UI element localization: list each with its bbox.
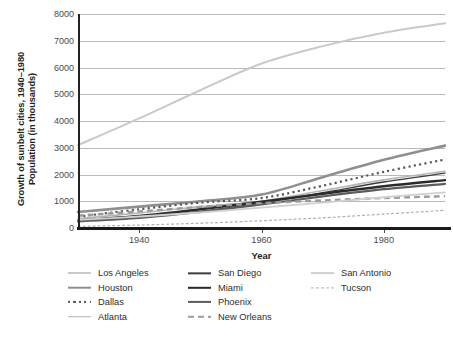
y-axis-tick-label: 7000 (54, 36, 74, 46)
y-axis-tick-label: 3000 (54, 143, 74, 153)
x-axis-tick-label: 1940 (129, 235, 149, 245)
legend-swatch-line-icon (311, 268, 334, 278)
legend-item-miami[interactable]: Miami (188, 281, 272, 296)
legend-label: Phoenix (218, 297, 252, 307)
legend-label: San Diego (218, 268, 261, 278)
y-axis-title: Growth of sunbelt cities, 1940–1980 Popu… (16, 14, 50, 244)
chart-legend: Los AngelesHoustonDallasAtlantaSan Diego… (68, 266, 453, 334)
y-axis-tick-label: 4000 (54, 116, 74, 126)
y-axis-line (78, 14, 80, 228)
legend-swatch-line-icon (68, 312, 91, 322)
y-axis-tick-label: 8000 (54, 9, 74, 19)
x-axis-tick-label: 1960 (251, 235, 271, 245)
legend-swatch-line-icon (188, 312, 211, 322)
series-line (78, 23, 445, 145)
y-axis-title-line2: Population (in thousands) (27, 14, 38, 244)
legend-label: Atlanta (98, 312, 127, 322)
legend-label: Tucson (341, 283, 371, 293)
x-axis-tick-label: 1980 (374, 235, 394, 245)
legend-item-houston[interactable]: Houston (68, 281, 149, 296)
legend-label: Los Angeles (98, 268, 149, 278)
legend-item-new-orleans[interactable]: New Orleans (188, 310, 272, 325)
legend-swatch-line-icon (68, 297, 91, 307)
legend-column: San AntonioTucson (311, 266, 391, 295)
legend-swatch-line-icon (311, 283, 334, 293)
legend-item-tucson[interactable]: Tucson (311, 281, 391, 296)
legend-column: San DiegoMiamiPhoenixNew Orleans (188, 266, 272, 324)
legend-swatch-line-icon (68, 283, 91, 293)
legend-item-los-angeles[interactable]: Los Angeles (68, 266, 149, 281)
legend-swatch-line-icon (68, 268, 91, 278)
chart-figure: Growth of sunbelt cities, 1940–1980 Popu… (0, 0, 453, 338)
y-axis-tick-label: 6000 (54, 63, 74, 73)
legend-label: San Antonio (341, 268, 391, 278)
y-axis-title-line1: Growth of sunbelt cities, 1940–1980 (16, 14, 27, 244)
legend-swatch-line-icon (188, 297, 211, 307)
y-axis-tick-label: 5000 (54, 89, 74, 99)
legend-item-dallas[interactable]: Dallas (68, 295, 149, 310)
y-axis-tick-label: 1000 (54, 196, 74, 206)
legend-label: Houston (98, 283, 133, 293)
legend-swatch-line-icon (188, 268, 211, 278)
y-axis-tick-label: 0 (69, 223, 74, 233)
series-line (78, 180, 445, 220)
legend-item-san-diego[interactable]: San Diego (188, 266, 272, 281)
y-axis-tick-label: 2000 (54, 170, 74, 180)
legend-item-atlanta[interactable]: Atlanta (68, 310, 149, 325)
legend-label: Dallas (98, 297, 124, 307)
legend-label: Miami (218, 283, 243, 293)
legend-swatch-line-icon (188, 283, 211, 293)
legend-label: New Orleans (218, 312, 272, 322)
series-lines (78, 14, 445, 228)
x-axis-title: Year (78, 250, 445, 261)
plot-area: 010002000300040005000600070008000 194019… (78, 14, 445, 228)
legend-item-phoenix[interactable]: Phoenix (188, 295, 272, 310)
x-axis-line (77, 227, 451, 229)
legend-column: Los AngelesHoustonDallasAtlanta (68, 266, 149, 324)
legend-item-san-antonio[interactable]: San Antonio (311, 266, 391, 281)
